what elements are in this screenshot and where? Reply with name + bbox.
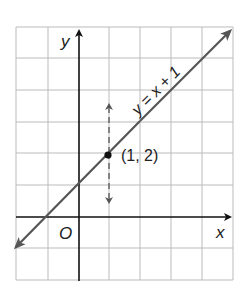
- point-label: (1, 2): [121, 147, 158, 164]
- origin-label: O: [59, 224, 72, 243]
- y-axis-label: y: [60, 32, 71, 51]
- line-equation-label: y = x + 1: [127, 63, 183, 119]
- x-axis-label: x: [215, 223, 225, 242]
- point-1-2: [104, 151, 111, 158]
- coordinate-plane: y x O (1, 2) y = x + 1: [0, 0, 248, 299]
- line-y-equals-x-plus-1-lower: [16, 121, 140, 247]
- line-y-equals-x-plus-1: [140, 31, 230, 121]
